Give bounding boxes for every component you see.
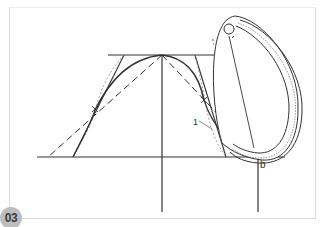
- left-lower-curve: [73, 110, 95, 157]
- french-curve-ruler: [212, 16, 302, 163]
- figure-number-badge: 03: [0, 207, 22, 227]
- left-dashed-diagonal: [48, 55, 162, 157]
- marker-1-label: 1: [193, 117, 198, 127]
- marker-1-leader: [199, 121, 212, 129]
- point-b-label: b: [260, 159, 266, 170]
- sleeve-cap-diagram: 1 b: [0, 0, 324, 227]
